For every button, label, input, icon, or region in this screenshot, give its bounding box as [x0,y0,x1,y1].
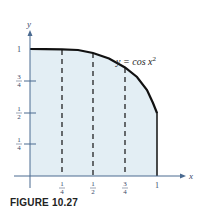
svg-text:1: 1 [155,181,159,190]
svg-text:4: 4 [60,188,64,196]
svg-text:2: 2 [17,113,21,121]
svg-text:4: 4 [17,144,21,152]
svg-text:1: 1 [60,180,64,188]
figure-caption: FIGURE 10.27 [10,197,78,208]
y-axis-arrow-icon [28,30,33,36]
svg-text:1: 1 [17,105,21,113]
x-axis-label: x [188,171,193,181]
chart-figure: x y y = cos x2 1 3 4 1 2 1 4 1 4 1 2 3 4… [0,0,208,213]
svg-text:1: 1 [17,136,21,144]
y-axis-label: y [26,19,31,29]
svg-text:4: 4 [17,81,21,89]
svg-text:2: 2 [91,188,95,196]
y-tick-labels: 1 3 4 1 2 1 4 [16,45,22,152]
svg-text:3: 3 [17,73,21,81]
svg-text:1: 1 [17,45,21,54]
function-label: y = cos x2 [115,55,156,67]
svg-text:3: 3 [123,180,127,188]
x-axis-arrow-icon [180,174,186,179]
x-tick-labels: 1 4 1 2 3 4 1 [59,180,159,196]
svg-text:4: 4 [123,188,127,196]
svg-text:1: 1 [91,180,95,188]
